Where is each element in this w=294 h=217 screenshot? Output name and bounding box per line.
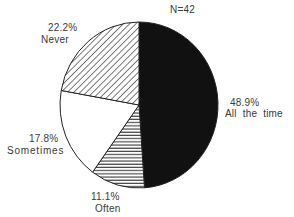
- slice-label-sometimes-pct: 17.8%: [29, 133, 58, 144]
- slice-all-the-time: [139, 22, 218, 188]
- slice-label-sometimes: Sometimes: [7, 145, 64, 156]
- slice-label-often: Often: [95, 203, 120, 214]
- slice-label-never: Never: [41, 34, 69, 45]
- slice-label-all-the-time: All the time: [225, 108, 283, 119]
- slice-label-all-pct: 48.9%: [230, 97, 259, 108]
- sample-size-annotation: N=42: [170, 4, 195, 15]
- pie-slices: [60, 22, 218, 188]
- slice-label-often-pct: 11.1%: [91, 191, 120, 202]
- slice-label-never-pct: 22.2%: [48, 22, 77, 33]
- slice-never: [61, 22, 139, 105]
